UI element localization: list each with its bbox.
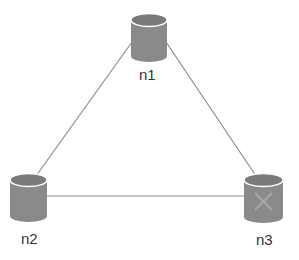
node-n3[interactable] bbox=[244, 174, 283, 224]
node-label-n2: n2 bbox=[21, 230, 38, 247]
node-label-n3: n3 bbox=[256, 231, 273, 248]
edge-n1-n3 bbox=[166, 42, 256, 176]
node-n1[interactable] bbox=[131, 14, 167, 63]
node-label-n1: n1 bbox=[139, 66, 156, 83]
edge-n1-n2 bbox=[36, 42, 132, 176]
topology-diagram bbox=[0, 0, 299, 260]
node-n2[interactable] bbox=[10, 174, 47, 223]
